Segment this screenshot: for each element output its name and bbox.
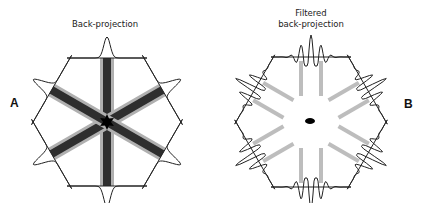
panel-b-label: B <box>404 97 413 111</box>
filtered-bar <box>329 83 359 101</box>
panel-b-title-line2: back-projection <box>278 19 344 29</box>
panel-b-center-point <box>305 118 315 124</box>
filtered-bar <box>253 126 283 144</box>
panel-a-label: A <box>10 96 19 110</box>
filtered-bar <box>253 100 283 118</box>
panel-a-title: Back-projection <box>72 19 138 29</box>
filtered-bar <box>263 83 293 101</box>
panel-a: Back-projection A <box>10 19 182 203</box>
diagram-canvas: Back-projection A Filtered back-projecti… <box>0 0 423 203</box>
projection-profile <box>271 178 351 203</box>
filtered-bar <box>339 100 369 118</box>
filtered-bar <box>263 144 293 162</box>
projection-profile <box>271 35 351 66</box>
panel-b-title-line1: Filtered <box>295 8 327 18</box>
projection-profile <box>67 37 147 58</box>
panel-b: Filtered back-projection B <box>235 8 413 203</box>
filtered-bar <box>329 144 359 162</box>
filtered-bar <box>339 126 369 144</box>
projection-profile <box>67 186 147 203</box>
